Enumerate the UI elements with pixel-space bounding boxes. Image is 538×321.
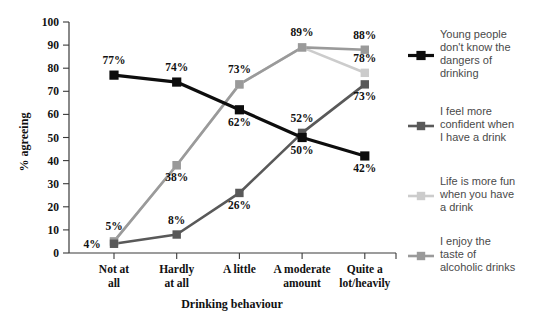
x-axis-category-label: at all <box>164 277 189 289</box>
data-point-marker <box>173 161 181 169</box>
legend-item-label: when you have <box>439 188 514 200</box>
legend-swatch-marker <box>417 252 425 260</box>
data-point-marker <box>361 80 369 88</box>
legend-item-label: I have a drink <box>440 131 507 143</box>
legend-item-label: dangers of <box>440 54 493 66</box>
data-point-marker <box>172 77 181 86</box>
legend-item-label: alcoholic drinks <box>440 261 516 273</box>
legend-item-label: drinking <box>440 67 479 79</box>
chart-figure: 0102030405060708090100 77%74%62%50%42%4%… <box>0 0 538 321</box>
y-tick-label: 50 <box>48 132 60 144</box>
data-point-value-label: 73% <box>228 63 251 75</box>
x-axis-category-label: A moderate <box>274 263 331 275</box>
chart-svg: 0102030405060708090100 77%74%62%50%42%4%… <box>0 0 538 321</box>
data-point-value-label: 89% <box>291 26 314 38</box>
y-axis-title: % agreeing <box>17 113 31 172</box>
data-point-value-label: 74% <box>165 61 188 73</box>
data-point-marker <box>235 189 243 197</box>
y-tick-label: 0 <box>53 247 59 259</box>
data-point-value-label: 88% <box>353 29 376 41</box>
y-tick-label: 20 <box>48 201 60 213</box>
data-point-value-label: 5% <box>105 220 122 232</box>
y-tick-label: 100 <box>42 16 60 28</box>
data-point-value-label: 77% <box>103 54 126 66</box>
x-axis-category-label: Hardly <box>159 263 194 276</box>
data-point-value-label: 38% <box>165 171 188 183</box>
y-tick-label: 90 <box>48 39 60 51</box>
x-axis-ticks <box>114 253 396 259</box>
y-tick-label: 40 <box>48 155 60 167</box>
x-axis-category-label: A little <box>223 263 256 275</box>
y-tick-label: 70 <box>48 85 60 97</box>
legend-item-label: Young people <box>440 28 507 40</box>
x-axis-category-label: amount <box>283 277 321 289</box>
legend-swatch-marker <box>416 51 425 60</box>
y-tick-label: 10 <box>48 224 60 236</box>
legend-item-label: Life is more fun <box>440 175 515 187</box>
data-point-value-label: 78% <box>353 52 376 64</box>
x-axis-category-label: all <box>108 277 120 289</box>
x-axis-category-label: lot/heavily <box>339 277 390 290</box>
legend-item-label: taste of <box>440 248 477 260</box>
y-tick-label: 80 <box>48 62 60 74</box>
data-point-value-label: 50% <box>291 144 314 156</box>
data-point-marker <box>109 71 118 80</box>
data-point-marker <box>110 240 118 248</box>
data-point-marker <box>235 80 243 88</box>
data-point-value-label: 52% <box>291 112 314 124</box>
data-point-marker <box>173 230 181 238</box>
data-point-value-label: 8% <box>168 214 185 226</box>
legend-item-label: I feel more <box>440 105 492 117</box>
y-tick-label: 30 <box>48 178 60 190</box>
y-tick-label: 60 <box>48 108 60 120</box>
legend-item-label: I enjoy the <box>440 235 491 247</box>
x-axis-category-label: Not at <box>99 263 130 275</box>
data-point-marker <box>361 69 369 77</box>
data-point-value-label: 4% <box>83 238 100 250</box>
legend-item-label: a drink <box>440 201 474 213</box>
chart-legend: Young peopledon't know thedangers ofdrin… <box>408 28 516 273</box>
x-axis-category-label: Quite a <box>347 263 383 275</box>
data-point-value-label: 73% <box>353 90 376 102</box>
data-point-value-label: 62% <box>228 116 251 128</box>
data-point-marker <box>360 151 369 160</box>
x-axis-labels: Not atallHardlyat allA littleA moderatea… <box>99 263 391 290</box>
data-point-value-label: 26% <box>228 199 251 211</box>
data-point-marker <box>235 105 244 114</box>
legend-item-label: confident when <box>440 118 514 130</box>
data-point-marker <box>298 43 306 51</box>
x-axis-title: Drinking behaviour <box>181 297 283 311</box>
legend-swatch-marker <box>417 192 425 200</box>
legend-item-label: don't know the <box>440 41 511 53</box>
legend-swatch-marker <box>417 122 425 130</box>
data-point-marker <box>298 133 307 142</box>
y-axis-ticks: 0102030405060708090100 <box>42 16 69 259</box>
data-point-value-label: 42% <box>353 162 376 174</box>
